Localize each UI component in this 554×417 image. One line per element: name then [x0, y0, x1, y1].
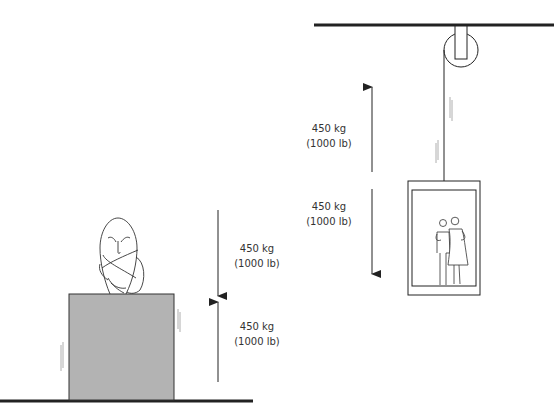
mass-value: 450 kg — [222, 241, 292, 256]
right-scene — [314, 25, 554, 295]
mass-value: 450 kg — [222, 319, 292, 334]
weight-value: (1000 lb) — [222, 334, 292, 349]
right-down-force-label: 450 kg (1000 lb) — [294, 199, 364, 229]
weight-value: (1000 lb) — [294, 136, 364, 151]
mass-value: 450 kg — [294, 121, 364, 136]
mass-value: 450 kg — [294, 199, 364, 214]
left-down-force-label: 450 kg (1000 lb) — [222, 241, 292, 271]
left-scene — [0, 210, 253, 401]
weight-value: (1000 lb) — [294, 214, 364, 229]
left-up-force-label: 450 kg (1000 lb) — [222, 319, 292, 349]
force-diagram — [0, 0, 554, 417]
right-up-force-label: 450 kg (1000 lb) — [294, 121, 364, 151]
weight-value: (1000 lb) — [222, 256, 292, 271]
pulley-icon — [444, 26, 478, 67]
bust-statue-icon — [99, 218, 143, 294]
elevator-car — [408, 181, 480, 295]
crate — [69, 294, 174, 400]
